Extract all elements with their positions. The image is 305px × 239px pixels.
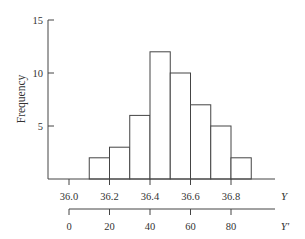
- y-axis-ticks: 51015: [33, 15, 55, 132]
- secondary-x-axis-ticks: 020406080: [66, 209, 236, 232]
- histogram-chart: 51015 Frequency 36.036.236.436.636.8 Y 0…: [0, 0, 305, 239]
- x-tick-label: 36.4: [141, 191, 160, 202]
- histogram-bar: [191, 105, 211, 179]
- y-axis-title: Frequency: [15, 74, 28, 123]
- x-tick-label: 36.0: [60, 191, 78, 202]
- x-tick-label: 36.8: [222, 191, 240, 202]
- histogram-bar: [150, 52, 170, 179]
- x-axis-title: Y: [281, 190, 289, 202]
- secondary-x-tick-label: 80: [226, 221, 237, 232]
- y-tick-label: 5: [38, 121, 43, 132]
- histogram-bar: [231, 158, 251, 179]
- x-axis-ticks: 36.036.236.436.636.8: [60, 179, 240, 202]
- secondary-x-tick-label: 0: [66, 221, 71, 232]
- x-tick-label: 36.2: [100, 191, 118, 202]
- secondary-x-axis-title: Y': [281, 220, 290, 232]
- histogram-bar: [211, 126, 231, 179]
- secondary-x-tick-label: 40: [145, 221, 156, 232]
- histogram-bar: [110, 147, 130, 179]
- histogram-bar: [130, 115, 150, 179]
- histogram-bars: [89, 52, 251, 179]
- secondary-x-tick-label: 20: [104, 221, 115, 232]
- histogram-bar: [170, 73, 190, 179]
- y-tick-label: 15: [33, 15, 44, 26]
- x-tick-label: 36.6: [181, 191, 199, 202]
- histogram-bar: [89, 158, 109, 179]
- secondary-x-tick-label: 60: [185, 221, 196, 232]
- y-tick-label: 10: [33, 68, 44, 79]
